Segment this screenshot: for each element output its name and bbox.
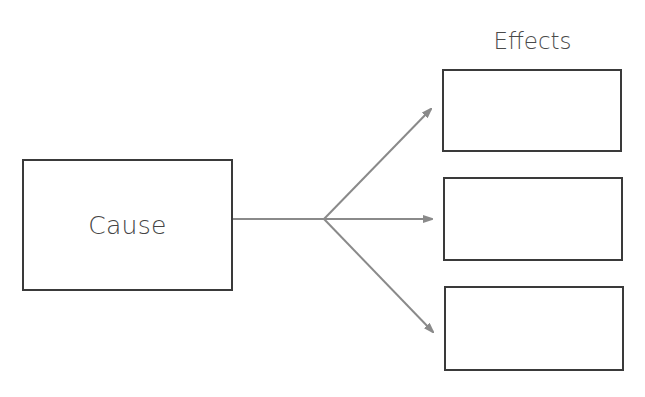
cause-box: Cause xyxy=(22,159,233,291)
effect-box-3 xyxy=(444,286,624,371)
arrow-to-effect-1 xyxy=(324,109,431,219)
effects-title: Effects xyxy=(442,28,623,54)
effect-box-1 xyxy=(442,69,622,152)
cause-label: Cause xyxy=(88,211,167,240)
effect-box-2 xyxy=(443,177,623,261)
arrow-to-effect-3 xyxy=(324,219,433,332)
